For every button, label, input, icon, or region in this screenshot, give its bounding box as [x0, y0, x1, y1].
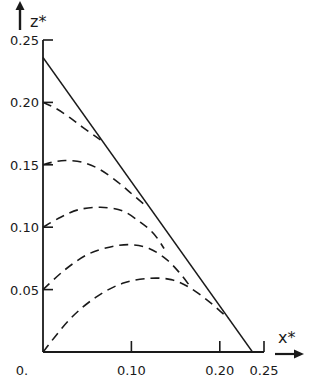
chart: 0.050.100.150.200.250.100.200.250.z*x*: [0, 0, 314, 388]
origin-label: 0.: [16, 363, 28, 378]
axes: [16, 1, 305, 359]
y-tick-label: 0.25: [10, 33, 39, 48]
x-tick-label: 0.10: [117, 363, 146, 378]
series-layer: [43, 57, 253, 352]
y-tick-label: 0.05: [10, 283, 39, 298]
x-tick-label: 0.20: [205, 363, 234, 378]
boundary-line: [43, 57, 253, 352]
dashed-curve: [43, 102, 100, 139]
dashed-curve: [43, 278, 229, 352]
x-axis-arrow-icon: [294, 350, 304, 359]
y-axis-title: z*: [30, 12, 46, 31]
y-tick-label: 0.20: [10, 95, 39, 110]
x-tick-label: 0.25: [250, 363, 279, 378]
dashed-curve: [43, 245, 191, 290]
x-axis-title: x*: [278, 328, 295, 347]
y-tick-label: 0.10: [10, 220, 39, 235]
y-axis-arrow-icon: [16, 1, 25, 10]
labels: 0.050.100.150.200.250.100.200.250.z*x*: [10, 12, 295, 378]
y-tick-label: 0.15: [10, 158, 39, 173]
dashed-curve: [43, 207, 164, 248]
dashed-curve: [43, 160, 145, 204]
